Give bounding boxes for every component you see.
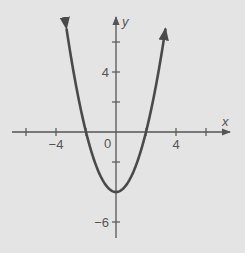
tick-labels: −444−6 [49,65,180,230]
origin-label: 0 [104,136,111,151]
parabola-chart: x y 0 −444−6 [0,0,245,253]
y-tick-label: −6 [94,215,109,230]
x-axis-label: x [221,114,229,129]
y-axis-label: y [121,14,130,29]
y-tick-label: 4 [102,65,109,80]
x-tick-label: −4 [49,137,64,152]
x-tick-label: 4 [172,137,179,152]
